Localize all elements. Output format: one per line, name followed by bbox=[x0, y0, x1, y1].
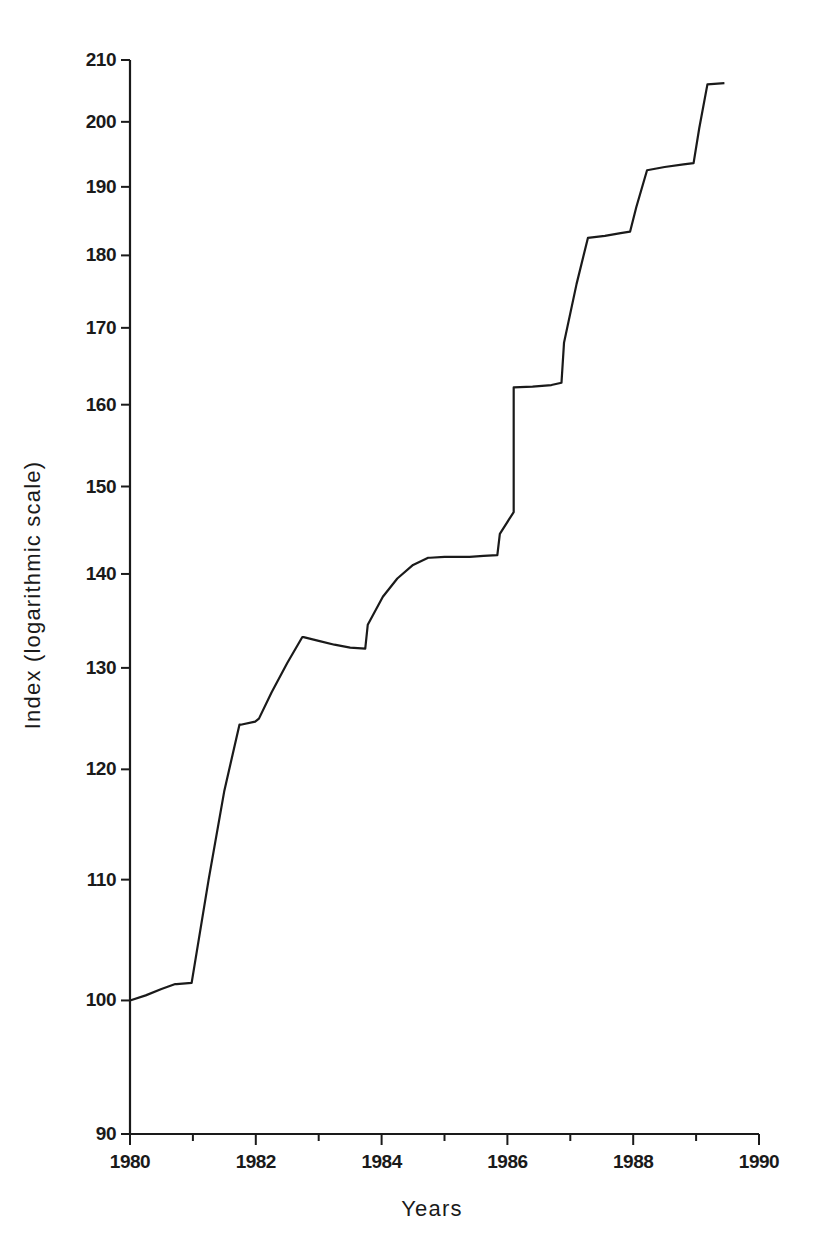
y-tick-label-120: 120 bbox=[86, 758, 116, 779]
x-tick-label-1984: 1984 bbox=[361, 1151, 402, 1172]
y-tick-label-130: 130 bbox=[86, 657, 116, 678]
x-tick-label-1980: 1980 bbox=[110, 1151, 150, 1172]
y-tick-label-190: 190 bbox=[86, 176, 116, 197]
x-tick-label-1986: 1986 bbox=[487, 1151, 527, 1172]
y-tick-label-140: 140 bbox=[86, 563, 116, 584]
y-axis-tick-labels: 90100110120130140150160170180190200210 bbox=[86, 49, 116, 1144]
y-tick-label-110: 110 bbox=[87, 869, 116, 890]
y-axis-title: Index (logarithmic scale) bbox=[20, 461, 45, 729]
x-tick-label-1982: 1982 bbox=[236, 1151, 276, 1172]
y-tick-label-210: 210 bbox=[86, 49, 116, 70]
chart-container: 90100110120130140150160170180190200210 1… bbox=[0, 0, 831, 1251]
y-tick-label-100: 100 bbox=[86, 989, 116, 1010]
y-tick-label-170: 170 bbox=[86, 317, 116, 338]
x-axis-ticks bbox=[130, 1134, 759, 1145]
y-tick-label-150: 150 bbox=[86, 476, 116, 497]
x-axis-tick-labels: 198019821984198619881990 bbox=[110, 1151, 779, 1172]
x-tick-label-1990: 1990 bbox=[739, 1151, 779, 1172]
x-axis-title: Years bbox=[401, 1196, 462, 1221]
y-tick-label-90: 90 bbox=[96, 1123, 116, 1144]
data-series-index bbox=[130, 83, 724, 1000]
line-chart: 90100110120130140150160170180190200210 1… bbox=[0, 0, 831, 1251]
y-tick-label-160: 160 bbox=[86, 394, 116, 415]
y-tick-label-180: 180 bbox=[86, 244, 116, 265]
y-axis-ticks bbox=[121, 60, 130, 1134]
x-tick-label-1988: 1988 bbox=[613, 1151, 653, 1172]
y-tick-label-200: 200 bbox=[86, 111, 116, 132]
